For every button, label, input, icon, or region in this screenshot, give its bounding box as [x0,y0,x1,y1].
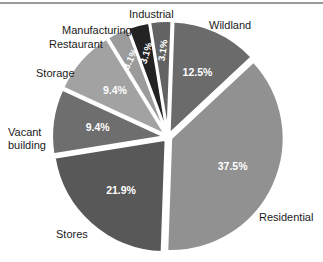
pie-label-restaurant: Restaurant [49,38,103,51]
pie-label-vacant-building: Vacant building [8,126,46,151]
pie-label-storage: Storage [36,67,75,80]
pie-value-stores: 21.9% [106,184,136,196]
pie-value-vacant-building: 9.4% [86,121,111,133]
pie-label-manufacturing: Manufacturing [62,24,132,37]
pie-label-industrial: Industrial [129,8,174,21]
pie-chart-figure: 12.5%37.5%21.9%9.4%9.4%3.1%3.1%3.1% Wild… [0,0,323,262]
pie-value-storage: 9.4% [103,84,128,96]
pie-value-wildland: 12.5% [183,66,213,78]
pie-label-residential: Residential [259,211,313,224]
pie-label-wildland: Wildland [209,19,251,32]
pie-value-residential: 37.5% [218,160,248,172]
pie-slice-group [52,21,284,253]
pie-label-stores: Stores [56,228,88,241]
